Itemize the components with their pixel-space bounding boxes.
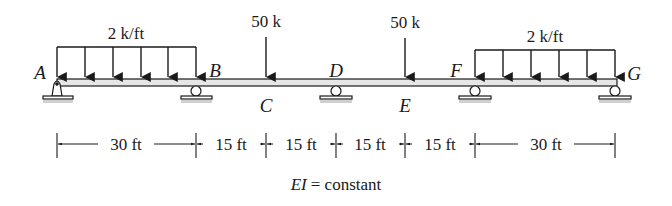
point-load-c-label: 50 k: [251, 12, 281, 31]
dimension-label-bc: 15 ft: [215, 135, 247, 154]
dimension-label-ab: 30 ft: [110, 135, 142, 154]
udl-right: [475, 50, 615, 77]
dimension-label-de: 15 ft: [354, 135, 386, 154]
dimension-label-cd: 15 ft: [285, 135, 317, 154]
dimension-label-fg: 30 ft: [530, 135, 562, 154]
dimension-label-ef: 15 ft: [424, 135, 456, 154]
udl-left: [57, 47, 196, 77]
stiffness-note-lhs: EI: [290, 175, 308, 194]
point-label-a: A: [32, 62, 46, 83]
roller-support-d: [320, 86, 352, 103]
roller-support-b: [181, 86, 212, 103]
stiffness-note-rhs: = constant: [311, 175, 382, 194]
stiffness-note: EI= constant: [290, 175, 382, 194]
roller-support-g: [599, 86, 631, 103]
roller-support-f: [459, 86, 491, 103]
point-label-c: C: [260, 95, 273, 116]
point-label-b: B: [209, 60, 221, 81]
point-label-f: F: [449, 60, 462, 81]
udl-left-label: 2 k/ft: [108, 24, 145, 43]
udl-right-label: 2 k/ft: [527, 27, 564, 46]
point-label-e: E: [398, 95, 411, 116]
point-label-d: D: [328, 60, 343, 81]
point-load-e-label: 50 k: [390, 13, 420, 32]
point-label-g: G: [627, 63, 641, 84]
beam-diagram: 2 k/ft 2 k/ft 50 k 50 k: [0, 0, 672, 206]
